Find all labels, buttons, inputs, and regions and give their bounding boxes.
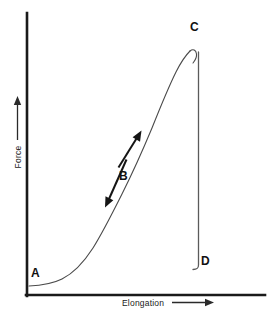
point-label-b: B (119, 170, 128, 182)
point-label-d: D (201, 255, 210, 267)
annotation-arrow-down (105, 160, 127, 208)
force-drop-line-c-to-d (193, 52, 199, 270)
y-axis-arrow-icon (14, 96, 21, 140)
annotation-arrow-up (119, 131, 142, 168)
force-elongation-figure: A B C D Elongation Force (0, 0, 277, 320)
break-hook-at-c (190, 50, 197, 63)
figure-canvas (0, 0, 277, 320)
x-axis-title: Elongation (122, 298, 164, 308)
point-label-c: C (190, 21, 199, 33)
y-axis-title: Force (13, 137, 23, 177)
point-label-a: A (31, 267, 40, 279)
x-axis-arrow-icon (172, 299, 214, 307)
force-elongation-curve (29, 51, 190, 286)
